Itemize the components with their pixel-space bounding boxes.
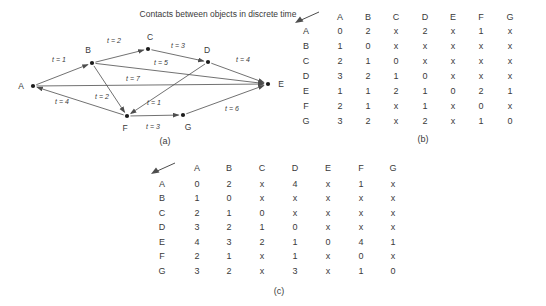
matrix-c-cell-E-E: 0 xyxy=(325,238,330,247)
matrix-c-cell-G-B: 2 xyxy=(226,267,231,276)
matrix-b-header-B: B xyxy=(365,13,371,22)
matrix-c-rowlabel-B: B xyxy=(159,194,165,203)
node-G xyxy=(181,113,185,117)
node-A xyxy=(31,84,35,88)
matrix-b-cell-G-G: 0 xyxy=(507,117,512,126)
matrix-c-rowlabel-F: F xyxy=(159,252,165,261)
matrix-b-header-E: E xyxy=(450,13,456,22)
matrix-b-cell-E-D: 1 xyxy=(422,87,427,96)
matrix-c-cell-B-E: x xyxy=(326,194,331,203)
matrix-b-cell-A-A: 0 xyxy=(337,27,342,36)
matrix-c-cell-D-C: 1 xyxy=(259,223,264,232)
matrix-c-cell-E-D: 1 xyxy=(292,238,297,247)
matrix-b-rowlabel-B: B xyxy=(303,42,309,51)
matrix-c-cell-F-C: x xyxy=(260,252,265,261)
matrix-b-cell-G-E: x xyxy=(451,117,456,126)
matrix-b-cell-G-D: 2 xyxy=(422,117,427,126)
matrix-b-header-F: F xyxy=(478,13,484,22)
figure: t = 1t = 2t = 3t = 4t = 5t = 7t = 4t = 2… xyxy=(0,0,546,306)
matrix-c-cell-A-E: x xyxy=(326,180,331,189)
matrix-b-cell-F-D: 1 xyxy=(422,102,427,111)
matrix-c-cell-E-C: 2 xyxy=(259,238,264,247)
matrix-c-cell-G-E: x xyxy=(326,267,331,276)
node-C xyxy=(146,47,150,51)
matrix-b-cell-C-G: x xyxy=(508,57,513,66)
matrix-b-cell-D-C: 1 xyxy=(393,72,398,81)
caption-c: (c) xyxy=(274,286,285,296)
matrix-b-rowlabel-C: C xyxy=(303,57,310,66)
matrix-b-cell-F-B: 1 xyxy=(365,102,370,111)
matrix-c-cell-A-B: 2 xyxy=(226,180,231,189)
matrix-c-cell-F-E: x xyxy=(326,252,331,261)
node-label-A: A xyxy=(18,81,24,91)
matrix-c-cell-B-A: 1 xyxy=(194,194,199,203)
matrix-c-cell-C-E: x xyxy=(326,209,331,218)
matrix-b-cell-D-F: x xyxy=(479,72,484,81)
matrix-b-cell-G-F: 1 xyxy=(478,117,483,126)
matrix-c-cell-C-F: x xyxy=(359,209,364,218)
matrix-b-cell-E-E: 0 xyxy=(450,87,455,96)
matrix-b-cell-C-A: 2 xyxy=(337,57,342,66)
matrix-b-cell-F-F: 0 xyxy=(478,102,483,111)
matrix-b-cell-D-A: 3 xyxy=(337,72,342,81)
matrix-c-rowlabel-E: E xyxy=(159,238,165,247)
matrix-c-cell-B-B: 0 xyxy=(226,194,231,203)
matrix-b-rowlabel-G: G xyxy=(302,117,309,126)
node-label-F: F xyxy=(122,123,127,133)
edge-label-D-F: t = 1 xyxy=(147,99,161,106)
matrix-c-header-F: F xyxy=(358,164,364,173)
matrix-b-cell-B-A: 1 xyxy=(337,42,342,51)
caption-b: (b) xyxy=(418,134,429,144)
matrix-b-rowlabel-F: F xyxy=(303,102,309,111)
matrix-b-cell-D-B: 2 xyxy=(365,72,370,81)
edge-label-B-C: t = 2 xyxy=(107,37,121,44)
matrix-b-cell-F-G: x xyxy=(508,102,513,111)
matrix-b-cell-A-C: x xyxy=(394,27,399,36)
matrix-b-cell-G-B: 2 xyxy=(365,117,370,126)
node-label-B: B xyxy=(85,45,91,55)
edge-label-A-E: t = 7 xyxy=(126,75,141,82)
node-D xyxy=(206,60,210,64)
matrix-c-cell-F-G: x xyxy=(391,252,396,261)
matrix-c-header-C: C xyxy=(259,164,266,173)
edge-D-F xyxy=(131,64,205,114)
matrix-c-cell-E-A: 4 xyxy=(194,238,199,247)
matrix-b-rowlabel-D: D xyxy=(303,72,310,81)
matrix-b-cell-G-A: 3 xyxy=(337,117,342,126)
matrix-c-rowlabel-D: D xyxy=(159,223,166,232)
node-label-G: G xyxy=(185,122,192,132)
matrix-c-cell-D-D: 0 xyxy=(292,223,297,232)
edge-label-G-E: t = 6 xyxy=(225,105,239,112)
matrix-b-cell-C-D: x xyxy=(423,57,428,66)
matrix-b-header-A: A xyxy=(337,13,343,22)
matrix-c-cell-A-A: 0 xyxy=(194,180,199,189)
matrix-c-cell-G-D: 3 xyxy=(292,267,297,276)
matrix-b-cell-E-C: 2 xyxy=(393,87,398,96)
matrix-b-cell-B-E: x xyxy=(451,42,456,51)
edge-F-G xyxy=(130,115,178,116)
matrix-b-header-G: G xyxy=(506,13,513,22)
matrix-c-cell-G-F: 1 xyxy=(358,267,363,276)
edge-label-F-G: t = 3 xyxy=(146,123,160,130)
matrix-c-cell-C-A: 2 xyxy=(194,209,199,218)
matrix-b-cell-C-B: 1 xyxy=(365,57,370,66)
matrix-c-cell-G-C: x xyxy=(260,267,265,276)
edge-B-C xyxy=(95,50,143,62)
matrix-b-cell-F-E: x xyxy=(451,102,456,111)
matrix-c-cell-F-F: 0 xyxy=(358,252,363,261)
node-label-C: C xyxy=(147,32,153,42)
node-F xyxy=(125,114,129,118)
matrix-c-cell-C-B: 1 xyxy=(226,209,231,218)
matrix-b-cell-A-E: x xyxy=(451,27,456,36)
arrow-down-left-icon xyxy=(148,160,178,176)
matrix-c-cell-D-G: x xyxy=(391,223,396,232)
matrix-b-cell-A-F: 1 xyxy=(478,27,483,36)
matrix-c-cell-F-D: 1 xyxy=(292,252,297,261)
caption-a: (a) xyxy=(160,136,171,146)
matrix-c-cell-D-B: 2 xyxy=(226,223,231,232)
matrix-b-cell-D-G: x xyxy=(508,72,513,81)
matrix-c-cell-B-D: x xyxy=(293,194,298,203)
matrix-c-header-B: B xyxy=(226,164,232,173)
figure-title: Contacts between objects in discrete tim… xyxy=(140,9,297,19)
matrix-b-cell-E-A: 1 xyxy=(337,87,342,96)
